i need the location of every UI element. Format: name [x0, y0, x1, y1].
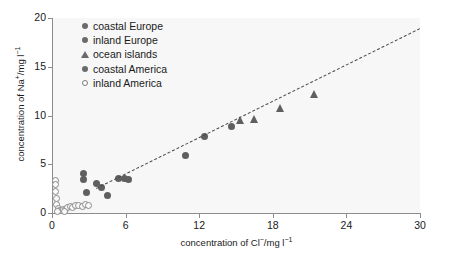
- data-point-circle: [83, 189, 90, 196]
- legend-label: ocean islands: [93, 48, 157, 60]
- legend-item: ocean islands: [78, 47, 167, 61]
- legend-label: inland Europe: [93, 34, 158, 46]
- marker-glyph: [81, 51, 89, 58]
- x-tick: [126, 214, 127, 218]
- x-tick: [346, 214, 347, 218]
- marker-glyph: [82, 66, 88, 72]
- x-tick-label: 24: [331, 219, 361, 231]
- data-point-open-circle: [54, 208, 61, 215]
- filled-circle-icon: [78, 23, 92, 29]
- data-point-open-circle: [61, 208, 68, 215]
- x-tick-label: 6: [111, 219, 141, 231]
- data-point-circle: [228, 123, 235, 130]
- scatter-plot-figure: 051015200612182430 concentration of Na+/…: [0, 0, 453, 261]
- triangle-icon: [78, 51, 92, 58]
- legend-label: coastal America: [93, 63, 167, 75]
- y-tick: [48, 67, 52, 68]
- x-tick: [273, 214, 274, 218]
- marker-glyph: [82, 37, 88, 43]
- x-tick-label: 30: [405, 219, 435, 231]
- data-point-triangle: [310, 90, 318, 98]
- y-tick: [48, 164, 52, 165]
- x-tick-label: 18: [258, 219, 288, 231]
- data-point-circle: [104, 192, 111, 199]
- x-tick: [52, 214, 53, 218]
- legend-item: inland Europe: [78, 33, 167, 47]
- x-axis-title: concentration of Cl−/mg l−1: [52, 236, 421, 248]
- x-tick-label: 0: [37, 219, 67, 231]
- marker-glyph: [82, 80, 88, 86]
- legend: coastal Europeinland Europeocean islands…: [78, 19, 167, 90]
- y-axis-title: concentration of Na+/mg l−1: [14, 9, 26, 199]
- filled-circle-icon: [78, 66, 92, 72]
- marker-glyph: [82, 23, 88, 29]
- filled-circle-icon: [78, 37, 92, 43]
- x-axis-line: [52, 213, 421, 214]
- legend-item: coastal America: [78, 62, 167, 76]
- y-tick: [48, 116, 52, 117]
- data-point-circle: [125, 176, 132, 183]
- legend-label: inland America: [93, 77, 162, 89]
- legend-item: coastal Europe: [78, 19, 167, 33]
- legend-label: coastal Europe: [93, 20, 163, 32]
- x-tick: [199, 214, 200, 218]
- x-tick-label: 12: [184, 219, 214, 231]
- open-circle-icon: [78, 80, 92, 86]
- y-tick: [48, 18, 52, 19]
- data-point-open-circle: [85, 202, 92, 209]
- x-tick: [420, 214, 421, 218]
- y-tick-label: 0: [20, 206, 46, 218]
- data-point-triangle: [250, 115, 258, 123]
- legend-item: inland America: [78, 76, 167, 90]
- data-point-triangle: [276, 104, 284, 112]
